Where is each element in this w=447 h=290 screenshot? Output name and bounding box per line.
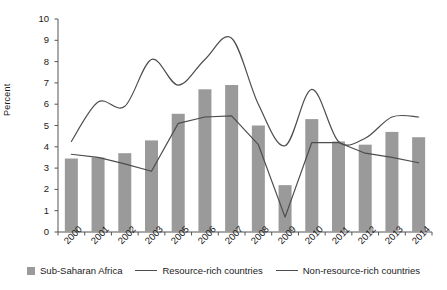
y-axis-tick-label: 7	[27, 78, 49, 88]
bar	[145, 140, 158, 232]
axis-lines	[58, 19, 432, 232]
y-axis-tick-label: 9	[27, 35, 49, 45]
bar-swatch-icon	[27, 267, 35, 275]
y-axis-tick-label: 6	[27, 99, 49, 109]
y-axis-tick-label: 5	[27, 121, 49, 131]
y-axis-title: Percent	[2, 46, 12, 116]
legend-item-resource-rich-countries[interactable]: Resource-rich countries	[135, 265, 262, 276]
line-swatch-icon	[135, 270, 157, 271]
bar	[252, 126, 265, 233]
bar	[305, 119, 318, 232]
bar	[332, 141, 345, 232]
legend-item-non-resource-rich-countries[interactable]: Non-resource-rich countries	[276, 265, 420, 276]
bar-series-sub-saharan-africa	[65, 85, 425, 232]
bar	[92, 157, 105, 232]
y-axis-tick-label: 3	[27, 163, 49, 173]
chart-legend: Sub-Saharan Africa Resource-rich countri…	[0, 265, 447, 276]
y-axis-tick-label: 10	[27, 14, 49, 24]
legend-label: Sub-Saharan Africa	[40, 265, 122, 276]
bar	[65, 159, 78, 232]
legend-label: Non-resource-rich countries	[303, 265, 420, 276]
y-axis-tick-label: 4	[27, 142, 49, 152]
chart-container: Percent 012345678910 2000200120022003200…	[0, 0, 447, 290]
y-axis-tick-label: 2	[27, 184, 49, 194]
y-axis-tick-label: 0	[27, 227, 49, 237]
line-swatch-icon	[276, 270, 298, 271]
bar	[385, 132, 398, 232]
bar	[225, 85, 238, 232]
bar	[359, 145, 372, 232]
legend-item-sub-saharan-africa[interactable]: Sub-Saharan Africa	[27, 265, 122, 276]
y-axis-tick-label: 8	[27, 57, 49, 67]
y-axis-tick-label: 1	[27, 206, 49, 216]
legend-label: Resource-rich countries	[162, 265, 262, 276]
bar	[198, 89, 211, 232]
bar	[412, 137, 425, 232]
plot-area	[0, 0, 447, 290]
